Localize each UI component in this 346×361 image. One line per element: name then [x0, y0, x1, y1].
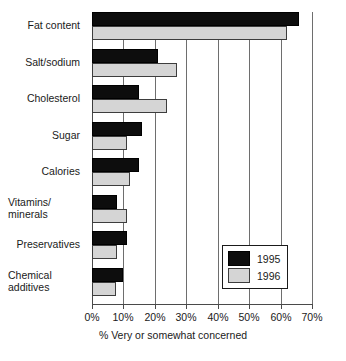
legend-item-1996: 1996 — [228, 267, 280, 284]
bar-group — [92, 122, 312, 150]
bar-group — [92, 158, 312, 186]
bar — [92, 209, 127, 223]
legend: 1995 1996 — [222, 245, 288, 289]
bar — [92, 85, 139, 99]
bar-chart: Fat contentSalt/sodiumCholesterolSugarCa… — [0, 0, 346, 361]
category-label: Calories — [0, 165, 80, 178]
tick-50 — [249, 304, 250, 309]
bar — [92, 172, 130, 186]
tick-30 — [186, 304, 187, 309]
category-label: Sugar — [0, 129, 80, 142]
category-label: Vitamins/ minerals — [8, 196, 84, 221]
category-label: Preservatives — [0, 238, 80, 251]
bar — [92, 49, 158, 63]
category-label: Salt/sodium — [0, 56, 80, 69]
bar — [92, 195, 117, 209]
legend-label-1995: 1995 — [257, 253, 280, 265]
bar — [92, 245, 117, 259]
bar — [92, 122, 142, 136]
bar — [92, 63, 177, 77]
bar — [92, 158, 139, 172]
tick-60 — [281, 304, 282, 309]
bar-group — [92, 195, 312, 223]
tick-10 — [123, 304, 124, 309]
x-axis-baseline — [92, 304, 313, 305]
bar — [92, 268, 123, 282]
bar — [92, 136, 127, 150]
legend-item-1995: 1995 — [228, 250, 280, 267]
bar — [92, 282, 116, 296]
bar-group — [92, 49, 312, 77]
x-axis-title: % Very or somewhat concerned — [0, 329, 346, 341]
bar — [92, 231, 127, 245]
tick-label-70: 70% — [292, 311, 332, 324]
legend-label-1996: 1996 — [257, 270, 280, 282]
tick-20 — [155, 304, 156, 309]
legend-swatch-1995 — [228, 251, 250, 266]
tick-40 — [218, 304, 219, 309]
category-label: Fat content — [0, 19, 80, 32]
gridline-70 — [312, 12, 313, 304]
legend-swatch-1996 — [228, 268, 250, 283]
bar-group — [92, 85, 312, 113]
bar — [92, 99, 167, 113]
category-label: Cholesterol — [0, 92, 80, 105]
bar-group — [92, 12, 312, 40]
tick-0 — [92, 304, 93, 309]
category-axis-labels: Fat contentSalt/sodiumCholesterolSugarCa… — [0, 12, 84, 304]
bar — [92, 12, 299, 26]
bar — [92, 26, 287, 40]
category-label: Chemical additives — [8, 269, 84, 294]
tick-70 — [312, 304, 313, 309]
